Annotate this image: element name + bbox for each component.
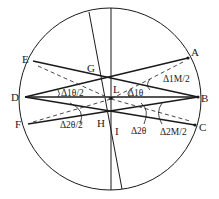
angle-label-d2-theta-half: Δ2θ/2	[60, 120, 83, 130]
arc-d1-M-half	[148, 79, 151, 90]
label-B: B	[201, 92, 208, 104]
angle-label-d2-theta: Δ2θ	[131, 126, 147, 136]
arc-d1-theta-half	[58, 90, 60, 97]
tilted-line-GH	[89, 12, 122, 189]
angle-label-d1-M-half: Δ1M/2	[163, 74, 190, 84]
angle-label-d1-theta: Δ1θ	[128, 88, 144, 98]
angle-label-d1-theta-half: Δ1θ/2	[61, 88, 84, 98]
label-H: H	[97, 117, 105, 129]
point-A	[186, 56, 189, 59]
angle-label-d2-M-half: Δ2M/2	[160, 127, 187, 137]
label-I: I	[115, 125, 119, 137]
label-L: L	[113, 83, 120, 95]
label-F: F	[15, 118, 21, 130]
label-G: G	[87, 62, 95, 74]
label-D: D	[11, 91, 19, 103]
circle-chord-diagram: A B C D E F G H I L Δ1θ/2 Δ1θ Δ1M/2 Δ2θ/…	[0, 0, 219, 199]
point-C	[193, 123, 196, 126]
label-E: E	[22, 53, 29, 65]
point-B	[196, 95, 199, 98]
label-C: C	[199, 121, 206, 133]
label-A: A	[191, 46, 199, 58]
point-L	[109, 96, 112, 99]
